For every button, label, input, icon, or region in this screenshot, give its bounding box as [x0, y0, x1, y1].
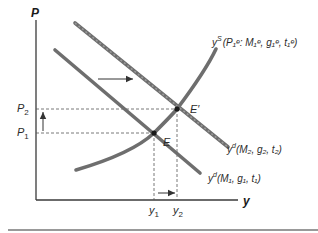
y2-label: y2	[172, 204, 184, 219]
p1-label: P1	[17, 126, 29, 141]
demand-curve-1	[55, 50, 200, 173]
diagram-canvas: P y P2 P1 y1 y2 E E′ yS(P₁ᵉ: M₁ᵉ, g₁ᵉ, t…	[0, 0, 318, 233]
supply-curve-label: yS(P₁ᵉ: M₁ᵉ, g₁ᵉ, t₁ᵉ)	[211, 35, 297, 48]
p2-label: P2	[17, 102, 29, 117]
equilibrium-point-e-prime	[174, 106, 179, 111]
equilibrium-label-e-prime: E′	[190, 103, 200, 115]
demand-curve-1-label: yd(M₁, g₁, t₁)	[207, 171, 261, 184]
equilibrium-point-e	[151, 130, 156, 135]
y1-label: y1	[148, 204, 160, 219]
equilibrium-label-e: E	[163, 136, 171, 148]
price-axis-label: P	[31, 6, 40, 20]
demand-curve-2-label: yd(M₂, g₂, t₂)	[226, 142, 282, 155]
output-axis-label: y	[242, 194, 251, 208]
